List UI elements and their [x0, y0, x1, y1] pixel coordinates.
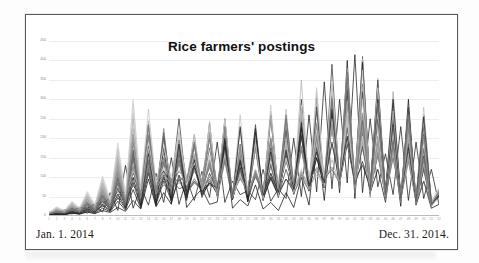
x-axis-tick-label: 52	[437, 218, 441, 221]
x-axis-tick-label: 36	[315, 218, 319, 221]
y-axis-tick-label: 250	[40, 117, 46, 121]
x-axis-tick-label: 15	[154, 218, 158, 221]
plot-area	[49, 41, 439, 216]
x-axis-tick-label: 17	[170, 218, 174, 221]
x-axis-tick-label: 13	[139, 218, 143, 221]
x-axis-tick-label: 25	[231, 218, 235, 221]
x-axis-tick-label: 1	[48, 218, 50, 221]
x-axis-tick-label: 39	[338, 218, 342, 221]
date-range-start: Jan. 1. 2014	[36, 228, 94, 240]
x-axis-tick-label: 26	[238, 218, 242, 221]
y-axis-tick-label: 100	[40, 175, 46, 179]
x-axis-tick-label: 8	[102, 218, 104, 221]
y-axis-labels: 050100150200250300350400450	[26, 41, 48, 216]
date-range-end: Dec. 31. 2014.	[379, 228, 449, 240]
x-axis-tick-label: 12	[131, 218, 135, 221]
x-axis-tick-label: 6	[86, 218, 88, 221]
x-axis-tick-label: 3	[63, 218, 65, 221]
x-axis-tick-label: 42	[361, 218, 365, 221]
x-axis-tick-label: 32	[284, 218, 288, 221]
x-axis-tick-label: 37	[323, 218, 327, 221]
x-axis-tick-label: 40	[345, 218, 349, 221]
x-axis-tick-label: 38	[330, 218, 334, 221]
x-axis-tick-label: 5	[79, 218, 81, 221]
x-axis-tick-label: 34	[300, 218, 304, 221]
y-axis-tick-label: 200	[40, 136, 46, 140]
x-axis-tick-label: 16	[162, 218, 166, 221]
series-lines	[49, 41, 439, 216]
x-axis-tick-label: 4	[71, 218, 73, 221]
y-axis-tick-label: 300	[40, 98, 46, 102]
scan-artifact-band	[26, 252, 436, 261]
x-axis-tick-label: 33	[292, 218, 296, 221]
y-axis-tick-label: 50	[42, 195, 46, 199]
x-axis-tick-label: 41	[353, 218, 357, 221]
x-axis-tick-label: 45	[384, 218, 388, 221]
y-axis-tick-label: 0	[44, 214, 46, 218]
x-axis-tick-label: 18	[177, 218, 181, 221]
x-axis-tick-label: 10	[116, 218, 120, 221]
y-axis-tick-label: 400	[40, 59, 46, 63]
x-axis-tick-label: 35	[307, 218, 311, 221]
x-axis-tick-label: 28	[254, 218, 258, 221]
y-axis-tick-label: 350	[40, 78, 46, 82]
x-axis-tick-label: 24	[223, 218, 227, 221]
x-axis-baseline	[49, 215, 439, 216]
x-axis-tick-label: 30	[269, 218, 273, 221]
x-axis-tick-label: 22	[208, 218, 212, 221]
x-axis-tick-label: 9	[109, 218, 111, 221]
x-axis-tick-label: 21	[200, 218, 204, 221]
x-axis-tick-label: 50	[422, 218, 426, 221]
figure-frame: Rice farmers' postings 05010015020025030…	[25, 14, 458, 250]
x-axis-tick-label: 19	[185, 218, 189, 221]
x-axis-tick-label: 46	[391, 218, 395, 221]
y-axis-tick-label: 150	[40, 156, 46, 160]
x-axis-tick-label: 2	[56, 218, 58, 221]
x-axis-tick-label: 7	[94, 218, 96, 221]
x-axis-tick-label: 51	[430, 218, 434, 221]
x-axis-tick-label: 47	[399, 218, 403, 221]
x-axis-tick-label: 31	[277, 218, 281, 221]
y-axis-tick-label: 450	[40, 39, 46, 43]
x-axis-tick-label: 29	[261, 218, 265, 221]
x-axis-labels: 1234567891011121314151617181920212223242…	[49, 218, 439, 226]
x-axis-tick-label: 23	[215, 218, 219, 221]
x-axis-tick-label: 44	[376, 218, 380, 221]
x-axis-tick-label: 27	[246, 218, 250, 221]
x-axis-tick-label: 49	[414, 218, 418, 221]
x-axis-tick-label: 43	[368, 218, 372, 221]
x-axis-tick-label: 20	[193, 218, 197, 221]
x-axis-tick-label: 14	[147, 218, 151, 221]
x-axis-tick-label: 48	[407, 218, 411, 221]
x-axis-tick-label: 11	[124, 218, 127, 221]
